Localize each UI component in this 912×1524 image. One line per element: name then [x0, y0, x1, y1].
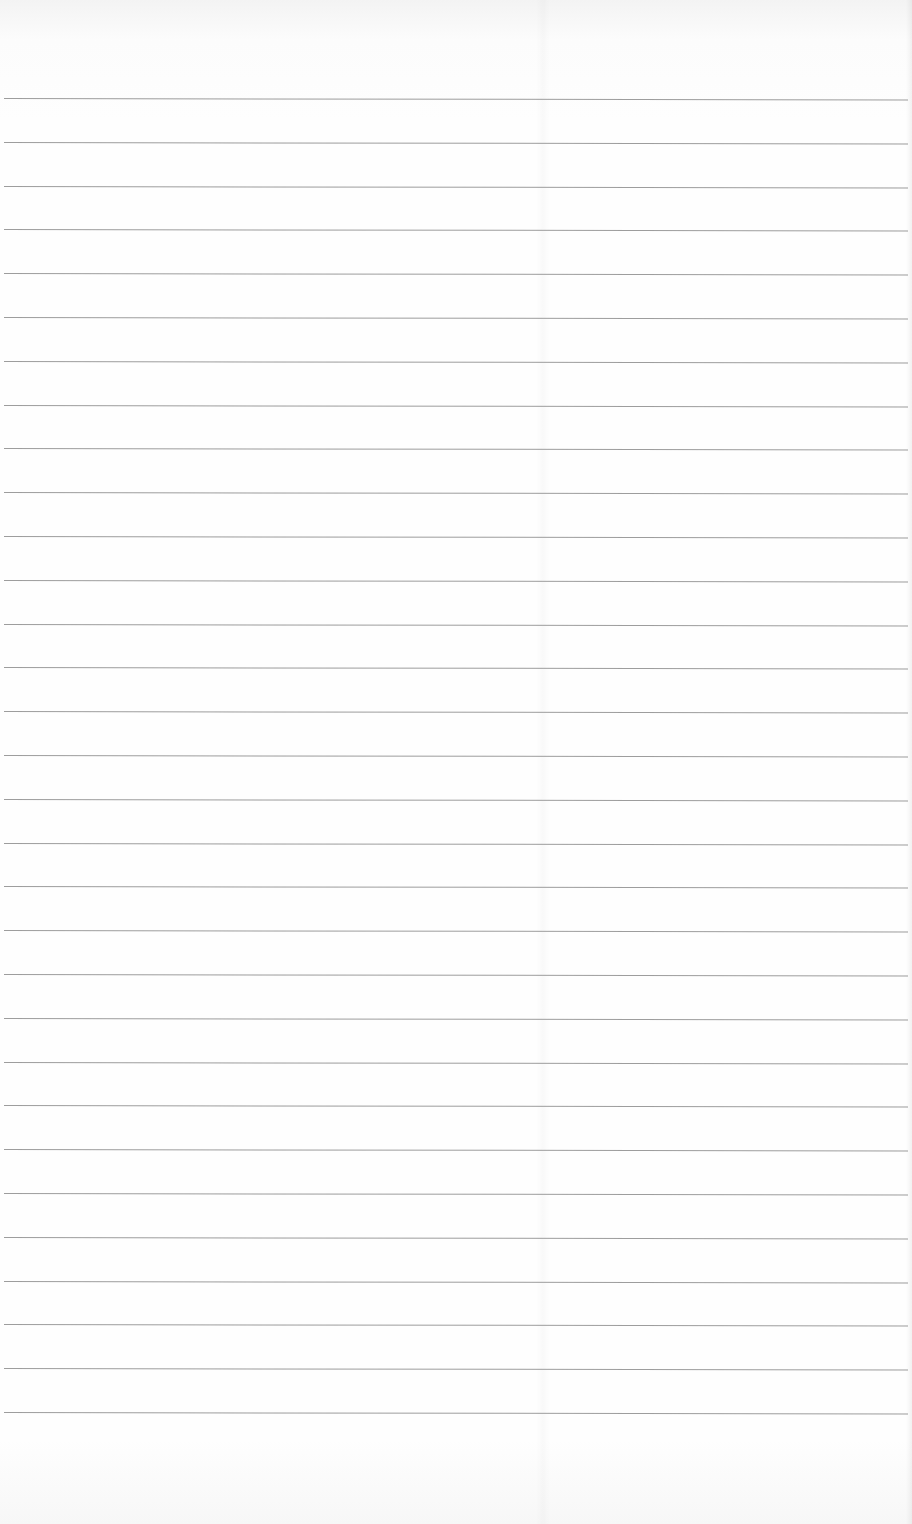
ruled-line [4, 317, 908, 319]
ruled-line [4, 667, 908, 669]
ruled-line [4, 142, 908, 144]
ruled-line [4, 1237, 908, 1239]
ruled-line [4, 1193, 908, 1195]
paper-fold-crease [536, 0, 550, 1524]
ruled-line [4, 186, 908, 188]
ruled-line [4, 1018, 908, 1020]
ruled-line [4, 799, 908, 801]
ruled-line [4, 886, 908, 888]
ruled-paper-sheet [0, 0, 912, 1524]
paper-edge-shadow [906, 0, 912, 1524]
ruled-line [4, 755, 908, 757]
ruled-line [4, 1324, 908, 1326]
ruled-line [4, 580, 908, 582]
ruled-line [4, 536, 908, 538]
ruled-line [4, 405, 908, 407]
ruled-line [4, 711, 908, 713]
ruled-line [4, 98, 908, 100]
ruled-line [4, 1149, 908, 1151]
ruled-line [4, 1281, 908, 1283]
ruled-line [4, 229, 908, 231]
ruled-line [4, 843, 908, 845]
ruled-line [4, 361, 908, 363]
ruled-line [4, 1412, 908, 1414]
ruled-line [4, 273, 908, 275]
ruled-line [4, 1368, 908, 1370]
ruled-line [4, 974, 908, 976]
ruled-line [4, 492, 908, 494]
ruled-line [4, 624, 908, 626]
ruled-line [4, 930, 908, 932]
ruled-line [4, 1062, 908, 1064]
ruled-line [4, 1105, 908, 1107]
ruled-line [4, 448, 908, 450]
